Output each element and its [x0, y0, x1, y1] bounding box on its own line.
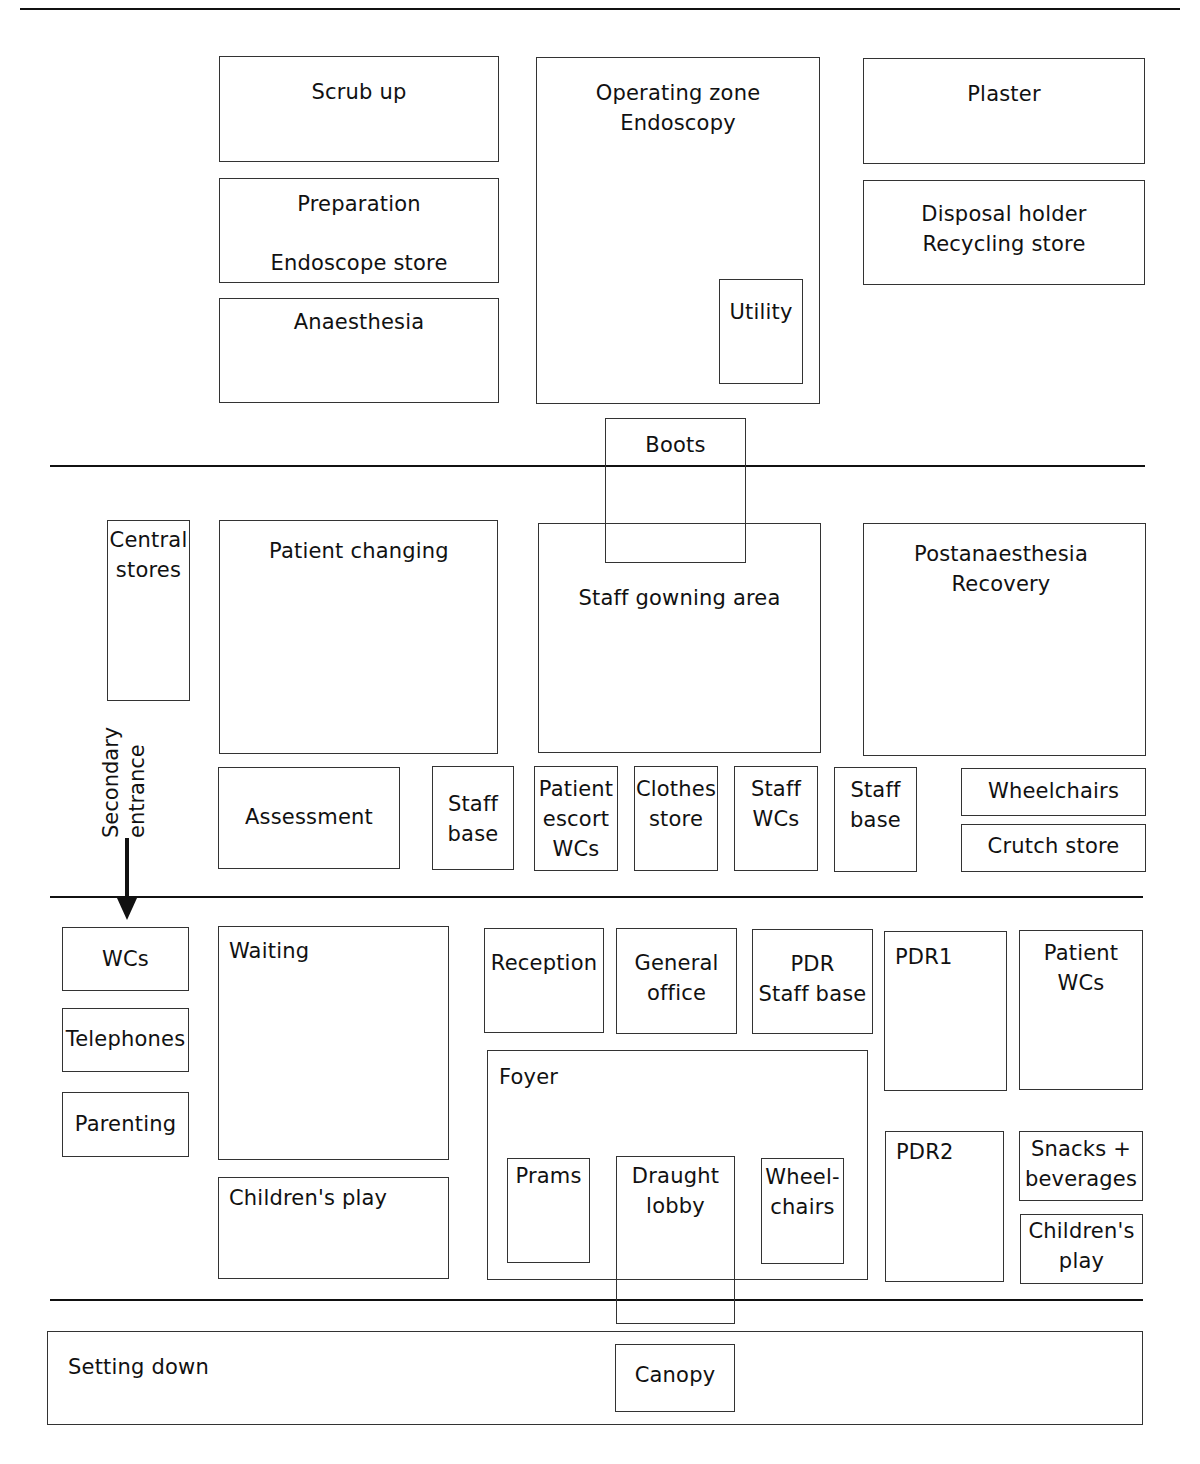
room-label: PDR Staff base — [753, 949, 872, 1009]
room-telephones: Telephones — [62, 1008, 189, 1072]
room-label: PDR1 — [895, 942, 953, 972]
room-label: Wheel- chairs — [762, 1162, 843, 1222]
room-parenting: Parenting — [62, 1092, 189, 1157]
room-canopy: Canopy — [615, 1344, 735, 1412]
room-label: Anaesthesia — [220, 307, 498, 337]
room-assessment: Assessment — [218, 767, 400, 869]
room-crutch-store: Crutch store — [961, 824, 1146, 872]
room-label: Setting down — [68, 1352, 209, 1382]
room-label: Staff gowning area — [539, 583, 820, 613]
zone-divider-reception — [50, 1299, 1143, 1301]
room-label: Draught lobby — [617, 1161, 734, 1221]
secondary-entrance-label: Secondary entrance — [98, 718, 150, 838]
room-label: Staff base — [433, 789, 513, 849]
zone-divider-operating — [50, 465, 1145, 467]
room-label: Scrub up — [220, 77, 498, 107]
room-staff-base-2: Staff base — [834, 767, 917, 872]
room-label: Boots — [606, 430, 745, 460]
room-patient-escort-wcs: Patient escort WCs — [534, 766, 618, 871]
room-preparation: Preparation Endoscope store — [219, 178, 499, 283]
room-prams: Prams — [507, 1158, 590, 1263]
room-staff-base-1: Staff base — [432, 766, 514, 870]
room-label: Staff WCs — [735, 774, 817, 834]
room-pdr1: PDR1 — [884, 931, 1007, 1091]
area-setting-down: Setting down — [47, 1331, 1143, 1425]
room-patient-wcs: Patient WCs — [1019, 930, 1143, 1090]
top-border-line — [20, 8, 1180, 10]
room-label: Central stores — [108, 525, 189, 585]
room-central-stores: Central stores — [107, 520, 190, 701]
room-wcs: WCs — [62, 927, 189, 991]
room-patient-changing: Patient changing — [219, 520, 498, 754]
room-wheelchairs-foyer: Wheel- chairs — [761, 1158, 844, 1264]
room-label: Postanaesthesia Recovery — [864, 539, 1138, 599]
room-label: Prams — [508, 1161, 589, 1191]
room-label: Disposal holder Recycling store — [864, 199, 1144, 259]
room-label: Clothes store — [635, 774, 717, 834]
room-label: Preparation — [220, 189, 498, 219]
room-waiting: Waiting — [218, 926, 449, 1160]
room-staff-wcs: Staff WCs — [734, 766, 818, 871]
room-wheelchairs: Wheelchairs — [961, 768, 1146, 816]
room-label: Snacks + beverages — [1020, 1134, 1142, 1194]
room-childrens-play-small: Children's play — [1020, 1214, 1143, 1284]
zone-divider-recovery — [50, 896, 1143, 898]
room-general-office: General office — [616, 928, 737, 1034]
room-label: Patient WCs — [1020, 938, 1142, 998]
room-label: Staff base — [835, 775, 916, 835]
room-disposal: Disposal holder Recycling store — [863, 180, 1145, 285]
room-label: Telephones — [63, 1024, 188, 1054]
room-label: Utility — [720, 297, 802, 327]
room-label-secondary: Endoscope store — [220, 248, 498, 278]
room-label: Canopy — [616, 1360, 734, 1390]
room-label: WCs — [63, 944, 188, 974]
room-scrub-up: Scrub up — [219, 56, 499, 162]
room-clothes-store: Clothes store — [634, 766, 718, 871]
room-draught-lobby: Draught lobby — [616, 1156, 735, 1324]
room-label: Operating zone Endoscopy — [537, 78, 819, 138]
room-label: Foyer — [499, 1062, 558, 1092]
arrow-down-icon — [114, 838, 140, 922]
room-label: Reception — [485, 948, 603, 978]
room-staff-gowning: Staff gowning area — [538, 523, 821, 753]
room-snacks: Snacks + beverages — [1019, 1131, 1143, 1201]
room-label: Waiting — [229, 936, 309, 966]
room-label: Children's play — [229, 1183, 387, 1213]
room-pdr-staff-base: PDR Staff base — [752, 929, 873, 1034]
room-label: Plaster — [864, 79, 1144, 109]
room-reception: Reception — [484, 928, 604, 1033]
room-label: Children's play — [1021, 1216, 1142, 1276]
room-postanaesthesia: Postanaesthesia Recovery — [863, 523, 1146, 756]
room-utility: Utility — [719, 279, 803, 384]
room-label: Crutch store — [962, 831, 1145, 861]
room-label: Patient escort WCs — [535, 774, 617, 864]
room-anaesthesia: Anaesthesia — [219, 298, 499, 403]
room-plaster: Plaster — [863, 58, 1145, 164]
room-label: General office — [617, 948, 736, 1008]
room-label: PDR2 — [896, 1137, 954, 1167]
room-label: Patient changing — [269, 536, 449, 566]
room-pdr2: PDR2 — [885, 1131, 1004, 1282]
room-label: Wheelchairs — [962, 776, 1145, 806]
room-label: Parenting — [63, 1109, 188, 1139]
room-childrens-play: Children's play — [218, 1177, 449, 1279]
room-label: Assessment — [219, 802, 399, 832]
